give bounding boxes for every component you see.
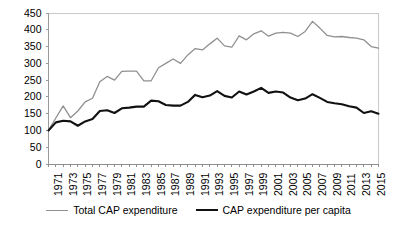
chart-legend: Total CAP expenditure CAP expenditure pe… <box>0 204 397 216</box>
x-axis-tick-label: 1989 <box>185 173 196 196</box>
y-axis-tick-label: 150 <box>12 108 42 119</box>
x-axis-tick-label: 1995 <box>229 173 240 196</box>
x-axis-tick-label: 1997 <box>244 173 255 196</box>
x-axis-tick-label: 2009 <box>332 173 343 196</box>
x-axis-tick-label: 1993 <box>214 173 225 196</box>
data-series-layer <box>49 21 379 130</box>
x-axis-tick-label: 1991 <box>200 173 211 196</box>
chart-figure: 050100150200250300350400450 197119731975… <box>0 0 397 229</box>
x-axis-tick-label: 1971 <box>53 173 64 196</box>
x-axis-tick-label: 1987 <box>170 173 181 196</box>
x-axis-tick-label: 1981 <box>126 173 137 196</box>
x-axis-tick-label: 1975 <box>82 173 93 196</box>
x-axis-tick-label: 1985 <box>156 173 167 196</box>
y-axis-tick-label: 100 <box>12 125 42 136</box>
x-axis-tick-label: 2005 <box>302 173 313 196</box>
x-axis-tick-label: 1979 <box>112 173 123 196</box>
legend-item-total-cap-expenditure: Total CAP expenditure <box>46 204 177 216</box>
x-axis-tick-label: 1999 <box>258 173 269 196</box>
legend-line-swatch-icon <box>46 210 68 211</box>
x-axis-tick-label: 2015 <box>376 173 387 196</box>
y-axis-tick-label: 250 <box>12 75 42 86</box>
legend-label: CAP expenditure per capita <box>223 204 351 216</box>
x-axis-tick-label: 2007 <box>317 173 328 196</box>
y-axis-tick-label: 0 <box>12 159 42 170</box>
y-axis-tick-label: 450 <box>12 8 42 19</box>
legend-line-swatch-icon <box>196 209 218 211</box>
x-axis-tick-label: 2011 <box>346 173 357 196</box>
legend-label: Total CAP expenditure <box>73 204 177 216</box>
x-axis-tick-label: 1973 <box>68 173 79 196</box>
y-axis-tick-label: 400 <box>12 24 42 35</box>
x-axis-tick-label: 2003 <box>288 173 299 196</box>
x-axis-tick-label: 1983 <box>141 173 152 196</box>
legend-item-cap-expenditure-per-capita: CAP expenditure per capita <box>196 204 351 216</box>
y-axis-tick-label: 50 <box>12 142 42 153</box>
x-axis-tick-label: 2001 <box>273 173 284 196</box>
x-axis-tick-label: 2013 <box>361 173 372 196</box>
y-axis-tick-label: 350 <box>12 41 42 52</box>
series-line-cap-expenditure-per-capita <box>49 88 379 131</box>
y-axis-tick-label: 200 <box>12 91 42 102</box>
x-axis-tick-label: 1977 <box>97 173 108 196</box>
y-axis-tick-label: 300 <box>12 58 42 69</box>
